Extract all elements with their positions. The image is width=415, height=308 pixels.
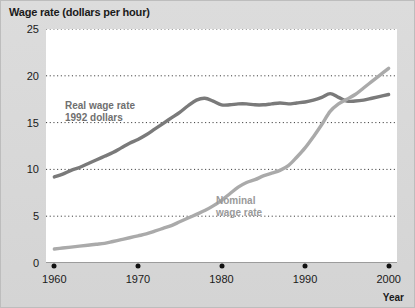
y-tick-label: 5	[17, 210, 39, 222]
chart-figure: Wage rate (dollars per hour) 0510152025 …	[0, 0, 415, 308]
y-tick-label: 10	[17, 163, 39, 175]
x-tick-marker	[386, 264, 391, 269]
series-label-real-wage-line1: Real wage rate	[65, 100, 135, 112]
y-tick-label: 0	[17, 257, 39, 269]
x-tick-marker	[135, 264, 140, 269]
x-tick-label: 1980	[199, 273, 245, 285]
series-label-real-wage: Real wage rate 1992 dollars	[65, 100, 135, 124]
series-label-real-wage-line2: 1992 dollars	[65, 112, 135, 124]
data-series-layer	[54, 68, 388, 249]
x-tick-label: 1960	[31, 273, 77, 285]
gridlines	[46, 29, 397, 263]
x-tick-label: 1970	[115, 273, 161, 285]
y-tick-label: 15	[17, 117, 39, 129]
series-line-nominal-wage	[54, 68, 388, 249]
y-tick-label: 20	[17, 70, 39, 82]
y-tick-label: 25	[17, 23, 39, 35]
x-tick-marker	[52, 264, 57, 269]
series-label-nominal-wage: Nominal wage rate	[216, 195, 262, 219]
x-tick-label: 2000	[366, 273, 412, 285]
x-tick-marker	[219, 264, 224, 269]
series-label-nominal-wage-line1: Nominal	[216, 195, 262, 207]
x-tick-marker	[303, 264, 308, 269]
plot-area	[46, 29, 397, 263]
series-label-nominal-wage-line2: wage rate	[216, 207, 262, 219]
chart-title: Wage rate (dollars per hour)	[9, 6, 150, 18]
chart-canvas	[46, 29, 397, 263]
x-tick-label: 1990	[282, 273, 328, 285]
x-axis-title: Year	[383, 292, 404, 303]
